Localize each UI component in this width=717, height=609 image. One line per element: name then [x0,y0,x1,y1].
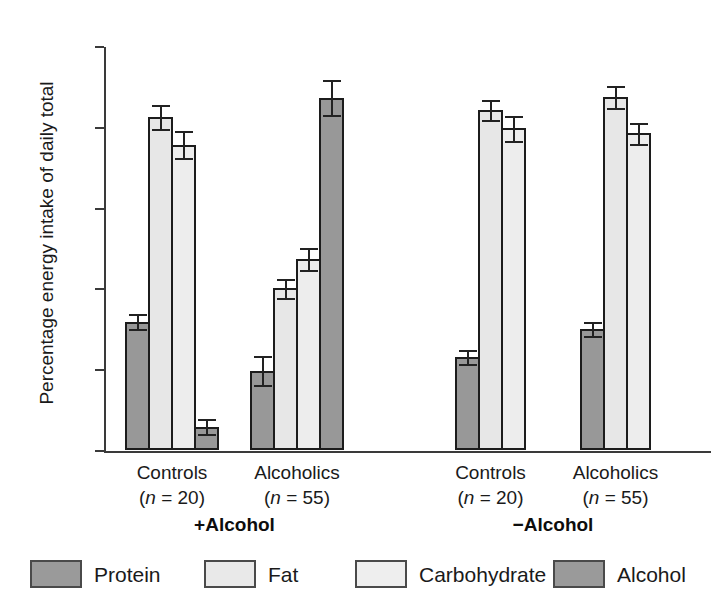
error-bar-cap-bottom [129,329,147,331]
error-bar-cap-top [459,350,477,352]
y-tick-0 [95,450,104,452]
error-bar-cap-bottom [482,120,500,122]
error-bar-cap-top [584,322,602,324]
panel-label: +Alcohol [125,514,345,536]
x-group-label: Alcoholics(n = 55) [506,460,717,510]
bar-carb [296,259,321,450]
error-bar-stem [160,105,162,131]
error-bar-cap-top [129,314,147,316]
y-tick-20 [95,288,104,290]
y-axis-line [104,47,106,453]
error-bar-stem [638,123,640,146]
error-bar-cap-top [323,80,341,82]
bar-chart-figure: Percentage energy intake of daily total … [0,0,717,609]
error-bar-cap-top [482,100,500,102]
error-bar-cap-bottom [630,144,648,146]
error-bar-stem [331,80,333,117]
error-bar-stem [513,116,515,143]
bar-fat [273,288,298,450]
error-bar-cap-top [152,105,170,107]
error-bar-stem [615,86,617,110]
bar-protein [125,322,150,450]
y-tick-40 [95,127,104,129]
x-axis-line [104,451,711,453]
legend-label: Alcohol [617,561,686,589]
legend-label: Protein [94,561,161,589]
error-bar-stem [285,279,287,300]
legend-label: Carbohydrate [419,561,546,589]
error-bar-cap-top [300,248,318,250]
error-bar-cap-bottom [607,108,625,110]
error-bar-cap-top [630,123,648,125]
x-group-sample-size: (n = 55) [187,485,407,510]
error-bar-cap-top [175,131,193,133]
x-group-sample-size: (n = 55) [506,485,717,510]
error-bar-cap-top [254,356,272,358]
bar-fat [148,117,173,450]
plot-area: 01020304050 [104,47,710,452]
error-bar-stem [490,100,492,123]
error-bar-cap-bottom [152,129,170,131]
bar-fat [478,110,503,450]
bar-protein [455,357,480,450]
legend-swatch-protein [30,560,82,588]
error-bar-stem [183,131,185,160]
error-bar-cap-bottom [277,298,295,300]
x-group-label: Alcoholics(n = 55) [187,460,407,510]
error-bar-cap-bottom [459,364,477,366]
bar-protein [580,329,605,450]
bar-carb [626,133,651,450]
error-bar-cap-top [607,86,625,88]
error-bar-cap-bottom [175,158,193,160]
legend-swatch-alcohol [553,560,605,588]
y-tick-30 [95,208,104,210]
y-axis-title: Percentage energy intake of daily total [32,28,62,458]
legend-swatch-carb [355,560,407,588]
panel-label: −Alcohol [443,514,663,536]
chart-legend: ProteinFatCarbohydrateAlcohol [0,556,717,600]
error-bar-cap-bottom [198,434,216,436]
legend-label: Fat [268,561,298,589]
bar-carb [501,128,526,450]
bar-carb [171,145,196,450]
x-group-name: Alcoholics [506,460,717,485]
error-bar-stem [308,248,310,272]
error-bar-cap-top [505,116,523,118]
bar-fat [603,97,628,450]
y-tick-10 [95,369,104,371]
error-bar-cap-top [277,279,295,281]
error-bar-stem [262,356,264,387]
error-bar-cap-bottom [300,270,318,272]
y-tick-50 [95,46,104,48]
error-bar-cap-bottom [505,141,523,143]
bar-alcohol [319,98,344,450]
error-bar-cap-bottom [323,115,341,117]
error-bar-cap-bottom [584,336,602,338]
x-group-name: Alcoholics [187,460,407,485]
legend-swatch-fat [204,560,256,588]
error-bar-cap-bottom [254,385,272,387]
error-bar-cap-top [198,419,216,421]
